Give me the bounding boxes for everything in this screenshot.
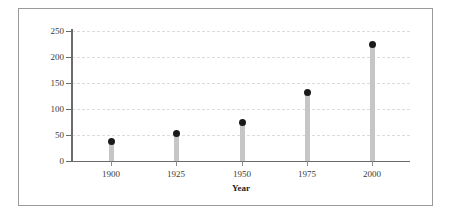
x-tick-label-1925: 1925: [156, 170, 196, 179]
y-tick-label-100: 100: [36, 105, 64, 114]
data-marker-1975: [304, 89, 311, 96]
gridline-200: [72, 57, 410, 58]
x-tick-label-1975: 1975: [287, 170, 327, 179]
y-tick-mark-150: [66, 83, 72, 84]
x-tick-mark-1900: [111, 161, 112, 166]
data-marker-1900: [108, 138, 115, 145]
data-marker-1925: [173, 130, 180, 137]
x-tick-mark-1925: [176, 161, 177, 166]
gridline-150: [72, 83, 410, 84]
x-tick-label-2000: 2000: [352, 170, 392, 179]
gridline-250: [72, 31, 410, 32]
x-tick-label-1950: 1950: [222, 170, 262, 179]
y-tick-mark-0: [66, 161, 72, 162]
y-tick-mark-50: [66, 135, 72, 136]
y-tick-label-0: 0: [36, 157, 64, 166]
y-tick-mark-200: [66, 57, 72, 58]
gridline-100: [72, 109, 410, 110]
data-marker-2000: [369, 41, 376, 48]
x-tick-mark-2000: [372, 161, 373, 166]
y-tick-mark-100: [66, 109, 72, 110]
data-marker-1950: [239, 119, 246, 126]
data-bar-1950: [240, 122, 245, 161]
y-tick-label-200: 200: [36, 53, 64, 62]
y-tick-label-150: 150: [36, 79, 64, 88]
y-tick-label-250: 250: [36, 27, 64, 36]
x-tick-mark-1975: [307, 161, 308, 166]
figure-root: 250 200 150 100 50 0 1900 1925 1950 1975…: [0, 0, 449, 218]
data-bar-1975: [305, 92, 310, 161]
y-tick-label-50: 50: [36, 131, 64, 140]
data-bar-2000: [370, 44, 375, 161]
data-bar-1925: [174, 133, 179, 161]
x-axis-line: [72, 161, 410, 162]
x-tick-label-1900: 1900: [91, 170, 131, 179]
x-tick-mark-1950: [242, 161, 243, 166]
x-axis-title: Year: [72, 184, 410, 193]
y-axis-line: [71, 29, 73, 162]
y-tick-mark-250: [66, 31, 72, 32]
